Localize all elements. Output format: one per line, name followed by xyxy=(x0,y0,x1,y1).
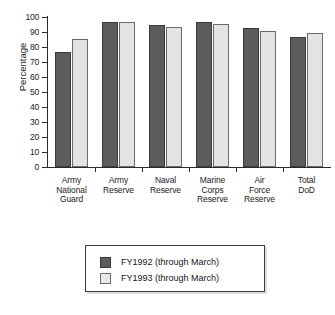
x-category-label-line: Reserve xyxy=(142,186,189,196)
chart-legend: FY1992 (through March) FY1993 (through M… xyxy=(85,245,265,292)
plot-area xyxy=(48,17,330,167)
x-category-label-line: Reserve xyxy=(95,186,142,196)
bar xyxy=(307,33,324,167)
y-tick-90 xyxy=(42,32,47,33)
bar xyxy=(102,22,119,168)
bar xyxy=(149,25,166,167)
x-tick xyxy=(189,168,190,172)
y-tick-label-20: 20 xyxy=(0,133,39,142)
x-category-label: TotalDoD xyxy=(283,176,330,195)
legend-swatch-fy1993 xyxy=(100,273,111,284)
x-category-label-line: DoD xyxy=(283,186,330,196)
x-category-label-line: Reserve xyxy=(189,195,236,205)
bar xyxy=(119,22,136,168)
y-tick-40 xyxy=(42,107,47,108)
legend-swatch-fy1992 xyxy=(100,257,111,268)
y-tick-80 xyxy=(42,47,47,48)
y-tick-100 xyxy=(42,17,47,18)
y-tick-label-50: 50 xyxy=(0,88,39,97)
legend-label-fy1993: FY1993 (through March) xyxy=(121,273,219,283)
legend-item-fy1993: FY1993 (through March) xyxy=(100,271,219,285)
y-tick-10 xyxy=(42,152,47,153)
x-category-label: MarineCorpsReserve xyxy=(189,176,236,205)
y-tick-60 xyxy=(42,77,47,78)
x-tick xyxy=(142,168,143,172)
y-tick-label-40: 40 xyxy=(0,103,39,112)
legend-label-fy1992: FY1992 (through March) xyxy=(121,257,219,267)
x-tick xyxy=(95,168,96,172)
bar xyxy=(260,31,277,168)
y-tick-label-100: 100 xyxy=(0,13,39,22)
x-category-label-line: Guard xyxy=(48,195,95,205)
legend-item-fy1992: FY1992 (through March) xyxy=(100,255,219,269)
x-category-label: NavalReserve xyxy=(142,176,189,195)
y-tick-label-70: 70 xyxy=(0,58,39,67)
y-tick-70 xyxy=(42,62,47,63)
bar xyxy=(72,39,89,167)
y-tick-label-10: 10 xyxy=(0,148,39,157)
y-tick-0 xyxy=(42,167,47,168)
x-category-label: ArmyNationalGuard xyxy=(48,176,95,205)
x-tick xyxy=(283,168,284,172)
bar-chart: Percentage 0102030405060708090100 ArmyNa… xyxy=(0,0,335,315)
bar xyxy=(196,22,213,168)
bar xyxy=(166,27,183,167)
y-tick-label-30: 30 xyxy=(0,118,39,127)
y-tick-label-80: 80 xyxy=(0,43,39,52)
bar xyxy=(243,28,260,168)
y-tick-30 xyxy=(42,122,47,123)
y-tick-50 xyxy=(42,92,47,93)
bar xyxy=(55,52,72,168)
bar xyxy=(290,37,307,167)
y-tick-label-0: 0 xyxy=(0,163,39,172)
y-tick-20 xyxy=(42,137,47,138)
y-tick-label-60: 60 xyxy=(0,73,39,82)
x-tick xyxy=(236,168,237,172)
bar xyxy=(213,24,230,167)
x-category-label: ArmyReserve xyxy=(95,176,142,195)
x-category-label-line: Reserve xyxy=(236,195,283,205)
y-tick-label-90: 90 xyxy=(0,28,39,37)
x-category-label: AirForceReserve xyxy=(236,176,283,205)
